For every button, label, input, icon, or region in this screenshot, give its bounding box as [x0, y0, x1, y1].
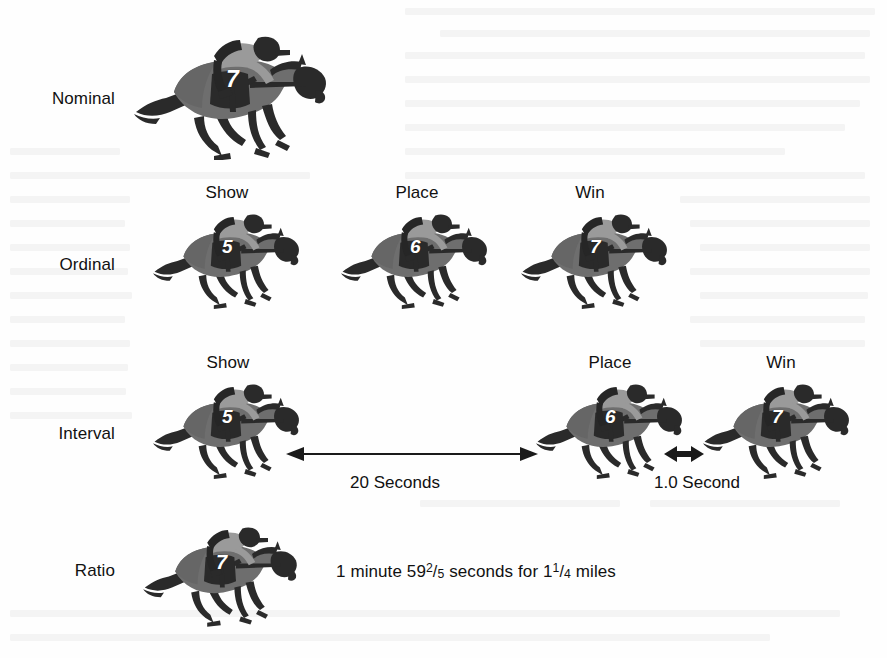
horse-ratio-7	[140, 508, 300, 632]
horse-number: 7	[216, 552, 227, 572]
horse-nominal-7	[130, 20, 330, 160]
column-header-win: Win	[575, 183, 605, 203]
row-label-ratio: Ratio	[0, 561, 115, 581]
column-header-win: Win	[766, 353, 796, 373]
horse-interval-show-5	[150, 366, 302, 484]
row-label-ordinal: Ordinal	[0, 255, 115, 275]
ratio-statement: 1 minute 592/5 seconds for 11/4 miles	[336, 561, 616, 582]
fraction-one-quarter: 1/4	[553, 562, 571, 581]
one-second-arrow	[664, 446, 704, 462]
horse-number: 6	[605, 407, 616, 426]
horse-ordinal-place-6	[338, 196, 490, 314]
column-header-place: Place	[588, 353, 631, 373]
horse-interval-win-7	[700, 366, 852, 484]
horse-number: 5	[222, 237, 233, 256]
horse-interval-place-6	[533, 366, 685, 484]
horse-ordinal-show-5	[150, 196, 302, 314]
horse-number: 7	[226, 68, 239, 91]
horse-number: 7	[590, 237, 601, 256]
measurement-levels-figure: Nominal	[0, 0, 887, 658]
annotation-1-second: 1.0 Second	[654, 473, 740, 493]
ratio-part-text: miles	[571, 562, 616, 581]
scan-bleed-through	[0, 0, 887, 658]
fraction-numerator: 2	[426, 561, 433, 575]
twenty-seconds-arrow	[286, 446, 538, 462]
horse-ordinal-win-7	[518, 196, 670, 314]
column-header-show: Show	[206, 183, 249, 203]
column-header-place: Place	[395, 183, 438, 203]
row-label-nominal: Nominal	[0, 89, 115, 109]
column-header-show: Show	[207, 353, 250, 373]
annotation-20-seconds: 20 Seconds	[350, 473, 440, 493]
horse-number: 6	[410, 237, 421, 256]
horse-number: 7	[772, 407, 783, 426]
ratio-part-text: seconds for 1	[444, 562, 552, 581]
fraction-two-fifths: 2/5	[426, 562, 444, 581]
row-label-interval: Interval	[0, 424, 115, 444]
fraction-denominator: 4	[564, 567, 571, 581]
ratio-part-text: 1 minute 59	[336, 562, 426, 581]
horse-number: 5	[222, 407, 233, 426]
